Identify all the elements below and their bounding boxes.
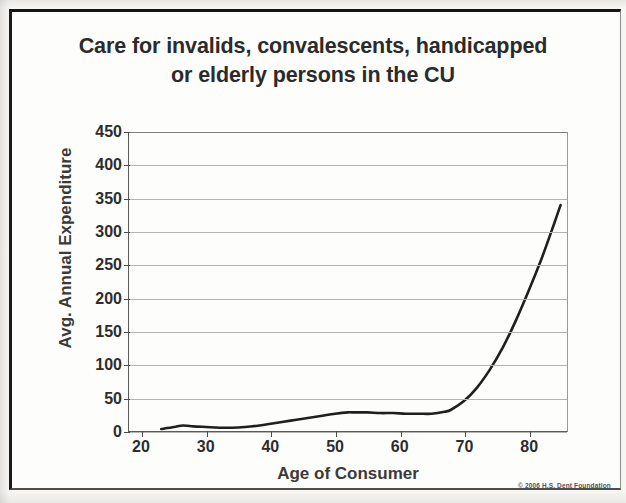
chart-title-line-2: or elderly persons in the CU xyxy=(18,61,608,90)
y-tick-mark xyxy=(124,365,130,366)
x-tick-label: 30 xyxy=(181,438,231,456)
x-tick-mark xyxy=(271,431,272,437)
x-tick-label: 60 xyxy=(375,438,425,456)
gridline xyxy=(129,432,567,433)
y-tick-mark xyxy=(124,299,130,300)
x-tick-mark xyxy=(530,431,531,437)
y-tick-mark xyxy=(124,232,130,233)
y-tick-label: 100 xyxy=(70,357,122,373)
x-tick-label: 70 xyxy=(439,438,489,456)
x-tick-label: 50 xyxy=(310,438,360,456)
y-tick-label: 300 xyxy=(70,224,122,240)
scanned-page: Care for invalids, convalescents, handic… xyxy=(0,0,626,503)
gridline xyxy=(129,265,567,266)
x-axis-tick-labels: 20304050607080 xyxy=(128,438,568,464)
chart-area: Avg. Annual Expenditure 0501001502002503… xyxy=(12,108,621,491)
plot-region xyxy=(128,132,568,432)
x-axis-title: Age of Consumer xyxy=(128,464,568,484)
gridline xyxy=(129,365,567,366)
gridline xyxy=(129,199,567,200)
gridline xyxy=(129,332,567,333)
gridline xyxy=(129,299,567,300)
y-tick-mark xyxy=(124,332,130,333)
chart-title-line-1: Care for invalids, convalescents, handic… xyxy=(18,32,608,61)
y-tick-label: 400 xyxy=(70,157,122,173)
x-tick-mark xyxy=(142,431,143,437)
y-tick-mark xyxy=(124,132,130,133)
y-tick-mark xyxy=(124,399,130,400)
y-tick-label: 200 xyxy=(70,291,122,307)
y-tick-mark xyxy=(124,199,130,200)
copyright-notice: © 2006 H.S. Dent Foundation xyxy=(518,482,611,489)
gridline xyxy=(129,165,567,166)
x-tick-mark xyxy=(336,431,337,437)
y-tick-mark xyxy=(124,432,130,433)
x-tick-label: 40 xyxy=(245,438,295,456)
x-tick-label: 20 xyxy=(116,438,166,456)
gridline xyxy=(129,132,567,133)
gridline xyxy=(129,399,567,400)
y-tick-label: 450 xyxy=(70,124,122,140)
x-tick-mark xyxy=(401,431,402,437)
x-tick-mark xyxy=(465,431,466,437)
chart-title: Care for invalids, convalescents, handic… xyxy=(18,32,608,90)
y-tick-label: 350 xyxy=(70,191,122,207)
y-tick-mark xyxy=(124,265,130,266)
y-tick-label: 150 xyxy=(70,324,122,340)
x-tick-mark xyxy=(207,431,208,437)
y-tick-label: 250 xyxy=(70,257,122,273)
y-tick-label: 50 xyxy=(70,391,122,407)
y-tick-mark xyxy=(124,165,130,166)
data-curve xyxy=(129,132,567,431)
y-tick-label: 0 xyxy=(70,424,122,440)
gridline xyxy=(129,232,567,233)
y-axis-tick-labels: 050100150200250300350400450 xyxy=(70,108,122,438)
x-tick-label: 80 xyxy=(504,438,554,456)
slide-frame: Care for invalids, convalescents, handic… xyxy=(9,9,621,490)
